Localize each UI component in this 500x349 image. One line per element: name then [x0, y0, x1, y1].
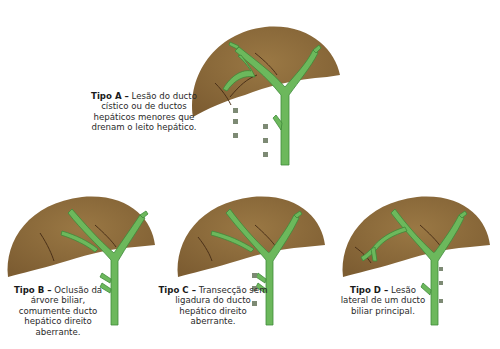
caption-title: Tipo D – — [350, 285, 388, 295]
liver-biliary-illustration-a — [185, 5, 355, 170]
caption-type-d: Tipo D – Lesão lateral de um ducto bilia… — [335, 285, 431, 316]
caption-title: Tipo A – — [91, 91, 129, 101]
caption-type-b: Tipo B – Oclusão da árvore biliar, comum… — [12, 285, 104, 337]
panel-type-d — [335, 185, 500, 349]
caption-title: Tipo B – — [14, 285, 52, 295]
caption-type-c: Tipo C – Transecção sem ligadura do duct… — [158, 285, 268, 327]
caption-title: Tipo C – — [158, 285, 195, 295]
liver-biliary-illustration-d — [335, 185, 500, 349]
panel-type-a — [185, 5, 355, 170]
caption-type-a: Tipo A – Lesão do ducto cístico ou de du… — [85, 91, 203, 133]
